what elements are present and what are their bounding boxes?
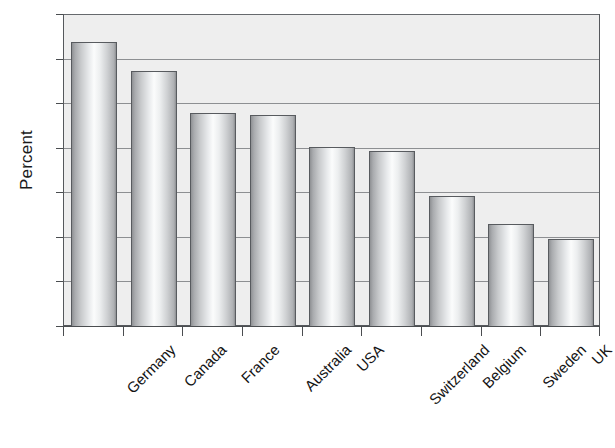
x-tick-label: Sweden	[538, 341, 588, 391]
x-tick-mark	[63, 327, 64, 336]
x-tick-mark	[302, 327, 303, 336]
plot-area	[63, 14, 600, 326]
x-tick-label: UK	[588, 341, 615, 368]
y-tick-mark	[56, 326, 63, 327]
bar	[250, 115, 296, 327]
bar	[71, 42, 117, 327]
bar	[369, 151, 415, 327]
x-tick-mark	[123, 327, 124, 336]
x-tick-label: USA	[353, 341, 387, 375]
y-tick-mark	[56, 281, 63, 282]
x-tick-label: Australia	[301, 341, 354, 394]
x-tick-mark	[182, 327, 183, 336]
x-tick-mark	[421, 327, 422, 336]
x-tick-label: France	[238, 341, 283, 386]
x-tick-mark	[242, 327, 243, 336]
y-tick-mark	[56, 192, 63, 193]
x-axis-line	[63, 326, 600, 327]
bar	[429, 196, 475, 327]
y-tick-mark	[56, 14, 63, 15]
gridline	[64, 14, 599, 15]
y-tick-mark	[56, 237, 63, 238]
bar	[309, 147, 355, 327]
bar	[548, 239, 594, 327]
x-tick-mark	[481, 327, 482, 336]
bar	[131, 71, 177, 327]
gridline	[64, 59, 599, 60]
x-tick-mark	[540, 327, 541, 336]
x-tick-mark	[599, 327, 600, 336]
bar	[190, 113, 236, 327]
x-tick-label: Canada	[180, 341, 229, 390]
x-tick-mark	[361, 327, 362, 336]
y-tick-mark	[56, 103, 63, 104]
x-tick-label: Germany	[123, 341, 179, 397]
y-tick-mark	[56, 59, 63, 60]
y-axis-title: Percent	[17, 100, 37, 220]
y-tick-mark	[56, 148, 63, 149]
bar	[488, 224, 534, 327]
